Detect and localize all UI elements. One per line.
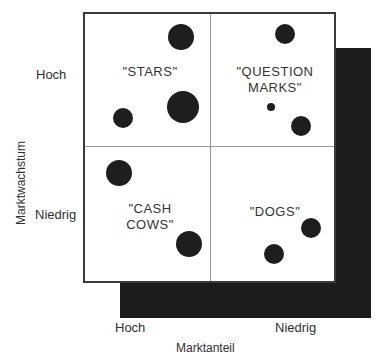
quadrant-label-question-marks: "QUESTION MARKS" xyxy=(225,64,325,96)
bubble-stars-1 xyxy=(168,24,194,50)
quadrant-label-stars: "STARS" xyxy=(105,64,195,80)
bubble-stars-3 xyxy=(113,108,133,128)
bcg-matrix-diagram: "STARS" "QUESTION MARKS" "CASH COWS" "DO… xyxy=(0,0,383,364)
bubble-stars-2 xyxy=(167,91,199,123)
matrix-frame: "STARS" "QUESTION MARKS" "CASH COWS" "DO… xyxy=(83,12,336,283)
y-axis-title: Marktwachstum xyxy=(14,141,28,225)
x-axis-title: Marktanteil xyxy=(176,341,235,355)
vertical-divider xyxy=(210,14,211,281)
x-axis-high-label: Hoch xyxy=(115,320,145,335)
bubble-cash-cows-1 xyxy=(106,160,132,186)
quadrant-label-cash-cows: "CASH COWS" xyxy=(105,201,195,233)
y-axis-low-label: Niedrig xyxy=(35,207,76,222)
bubble-dogs-1 xyxy=(301,218,321,238)
horizontal-divider xyxy=(85,146,334,147)
bubble-question-marks-2 xyxy=(267,103,275,111)
bubble-question-marks-1 xyxy=(275,24,295,44)
bubble-cash-cows-2 xyxy=(176,231,202,257)
x-axis-low-label: Niedrig xyxy=(275,320,316,335)
bubble-dogs-2 xyxy=(264,244,284,264)
y-axis-high-label: Hoch xyxy=(36,67,66,82)
bubble-question-marks-3 xyxy=(291,116,311,136)
